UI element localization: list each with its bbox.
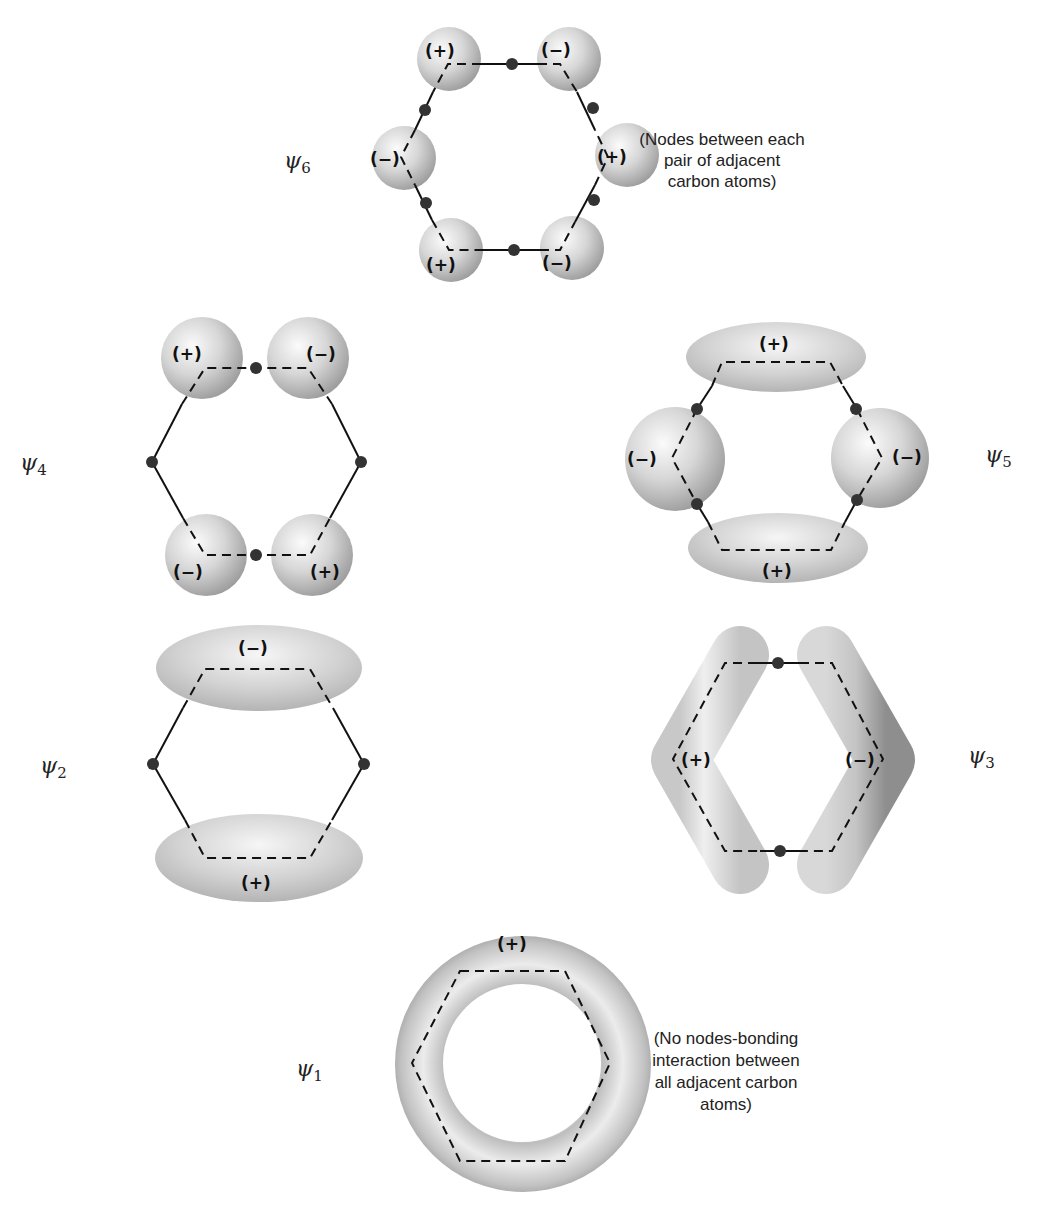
sign-label: (+) [597, 147, 627, 167]
svg-text:atoms): atoms) [700, 1095, 752, 1114]
node-dot [146, 456, 158, 468]
sign-label: (+) [172, 344, 202, 364]
svg-text:all adjacent carbon: all adjacent carbon [655, 1073, 798, 1092]
sign-label: (+) [425, 41, 455, 61]
sign-label: (−) [173, 562, 203, 582]
sign-label: (−) [370, 149, 400, 169]
sign-label: (−) [541, 40, 571, 60]
sign-label: (+) [762, 561, 792, 581]
psi5-label: ψ5 [985, 442, 1012, 471]
sign-label: (+) [497, 934, 527, 954]
sign-label: (−) [306, 344, 336, 364]
svg-text:(No nodes-bonding: (No nodes-bonding [654, 1029, 799, 1048]
sign-label: (−) [845, 750, 875, 770]
node-dot [355, 456, 367, 468]
psi6-label: ψ6 [284, 148, 311, 177]
orbital-psi4: ψ4 (+) (−) (−) (+) [20, 317, 367, 596]
psi1-label: ψ1 [296, 1056, 323, 1085]
node-dot [419, 104, 431, 116]
sign-label: (+) [759, 334, 789, 354]
node-dot [147, 758, 159, 770]
svg-text:(Nodes between each: (Nodes between each [639, 130, 804, 149]
node-dot [850, 403, 862, 415]
sign-label: (+) [681, 750, 711, 770]
sign-label: (−) [542, 253, 572, 273]
node-dot [851, 494, 863, 506]
psi1-note: (No nodes-bonding interaction between al… [652, 1029, 799, 1114]
node-dot [772, 657, 784, 669]
ring-hole [443, 984, 601, 1142]
psi4-label: ψ4 [20, 450, 47, 479]
psi6-note: (Nodes between each pair of adjacent [639, 130, 804, 170]
node-dot [588, 194, 600, 206]
node-dot [250, 362, 262, 374]
node-dot [420, 197, 432, 209]
orbital-psi2: ψ2 (−) (+) [40, 625, 370, 902]
svg-text:interaction between: interaction between [652, 1051, 799, 1070]
orbital-psi1: ψ1 (+) (No nodes-bonding interaction bet… [296, 934, 800, 1192]
psi3-label: ψ3 [968, 743, 995, 772]
node-dot [508, 244, 520, 256]
node-dot [358, 758, 370, 770]
node-dot [587, 102, 599, 114]
psi6-note-line3: carbon atoms) [668, 172, 777, 191]
orbital-psi6: ψ6 (+) (−) (−) (+) (+) (−) (Nodes betwee [284, 27, 805, 282]
orbital-psi3: ψ3 (+) (−) [673, 655, 995, 865]
node-dot [691, 498, 703, 510]
orbital-psi5: ψ5 (+) (−) (−) (+) [625, 322, 1012, 583]
node-dot [506, 58, 518, 70]
sign-label: (+) [241, 873, 271, 893]
node-dot [691, 403, 703, 415]
sign-label: (−) [238, 638, 268, 658]
svg-text:pair of adjacent: pair of adjacent [664, 151, 781, 170]
sign-label: (+) [426, 255, 456, 275]
lobe-bottom-left [165, 514, 247, 596]
node-dot [250, 549, 262, 561]
psi2-label: ψ2 [40, 753, 67, 782]
benzene-mo-diagram: ψ6 (+) (−) (−) (+) (+) (−) (Nodes betwee [0, 0, 1042, 1214]
sign-label: (−) [892, 447, 922, 467]
sign-label: (−) [627, 449, 657, 469]
sign-label: (+) [310, 562, 340, 582]
node-dot [774, 845, 786, 857]
